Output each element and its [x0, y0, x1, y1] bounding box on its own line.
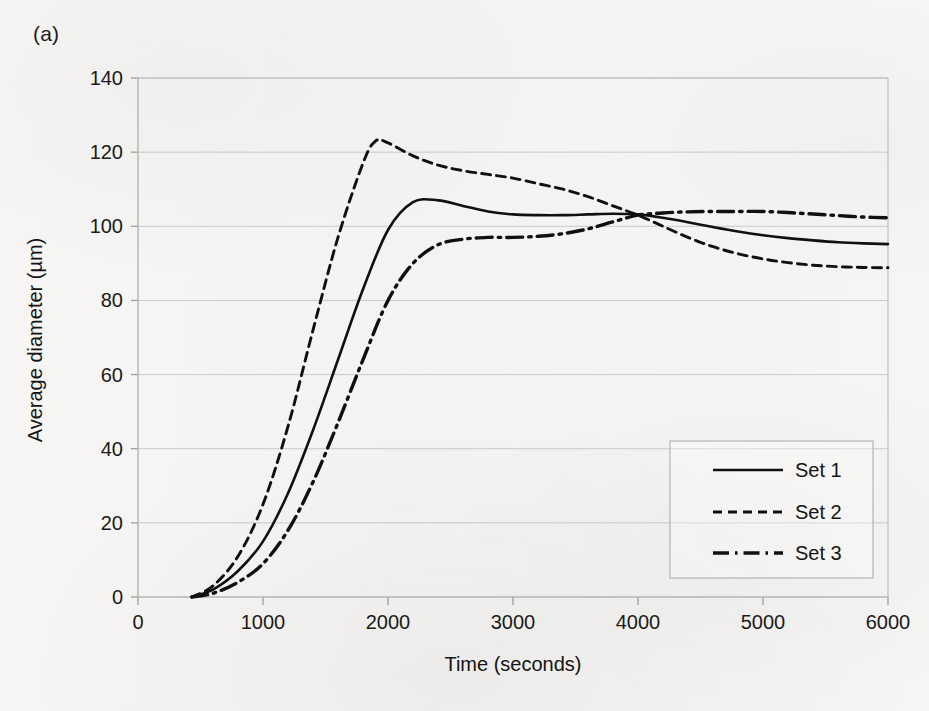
- x-axis-tick-labels: 0100020003000400050006000: [132, 611, 910, 633]
- legend-label-set-2: Set 2: [795, 501, 842, 523]
- legend-label-set-1: Set 1: [795, 459, 842, 481]
- y-tick-label: 40: [101, 438, 123, 460]
- y-axis-tick-labels: 020406080100120140: [90, 67, 123, 608]
- y-axis-title: Average diameter (µm): [24, 238, 46, 443]
- x-tick-label: 0: [132, 611, 143, 633]
- legend-box: [670, 441, 873, 578]
- x-tick-label: 6000: [866, 611, 911, 633]
- x-tick-label: 3000: [491, 611, 536, 633]
- x-tick-label: 1000: [241, 611, 286, 633]
- y-tick-label: 0: [112, 586, 123, 608]
- x-axis-title: Time (seconds): [444, 653, 581, 675]
- y-tick-label: 60: [101, 364, 123, 386]
- y-tick-label: 80: [101, 289, 123, 311]
- x-tick-label: 4000: [616, 611, 661, 633]
- y-tick-label: 20: [101, 512, 123, 534]
- x-tick-label: 5000: [741, 611, 786, 633]
- legend-label-set-3: Set 3: [795, 542, 842, 564]
- y-tick-label: 140: [90, 67, 123, 89]
- line-chart: 020406080100120140 010002000300040005000…: [0, 0, 929, 711]
- x-tick-label: 2000: [366, 611, 411, 633]
- figure-panel: (a) 020406080100120140 01000200030004000…: [0, 0, 929, 711]
- y-tick-label: 100: [90, 215, 123, 237]
- y-tick-label: 120: [90, 141, 123, 163]
